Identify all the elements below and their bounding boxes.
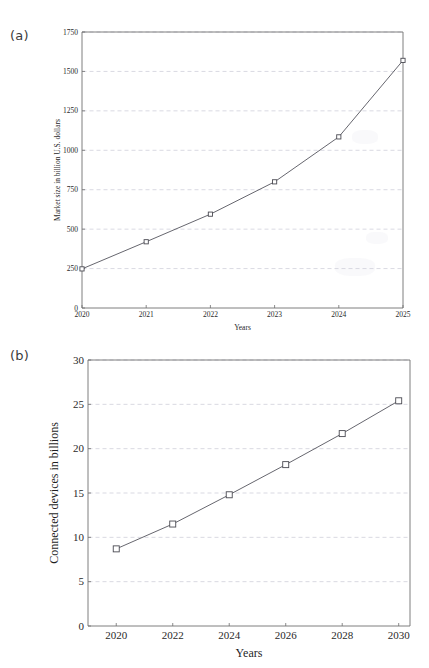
data-point-marker [80,267,84,271]
x-axis-title: Years [236,646,263,660]
y-tick-label: 10 [73,531,85,543]
y-tick-label: 1000 [63,146,78,155]
chart-panel-b: (b) 051015202530202020222024202620282030… [0,340,429,668]
x-tick-label: 2030 [388,629,411,641]
data-point-marker [113,546,119,552]
data-series-line [116,401,398,549]
x-tick-label: 2021 [139,310,154,319]
y-tick-label: 5 [79,575,85,587]
data-point-marker [226,492,232,498]
data-point-marker [273,180,277,184]
y-tick-label: 25 [73,398,85,410]
data-point-marker [339,431,345,437]
data-point-marker [337,135,341,139]
x-tick-label: 2022 [203,310,218,319]
y-axis-title: Market size in billion U.S. dollars [53,119,62,221]
data-point-marker [283,462,289,468]
y-tick-label: 30 [73,354,85,366]
y-tick-label: 1250 [63,106,78,115]
x-tick-label: 2024 [331,310,346,319]
x-tick-label: 2022 [162,629,184,641]
y-tick-label: 1500 [63,67,78,76]
line-chart-a: 0250500750100012501500175020202021202220… [0,0,429,340]
data-point-marker [401,58,405,62]
y-axis-title: Connected devices in billions [47,422,61,564]
y-tick-label: 1750 [63,28,78,37]
data-point-marker [170,521,176,527]
data-point-marker [208,212,212,216]
y-tick-label: 250 [67,264,79,273]
data-point-marker [396,398,402,404]
data-point-marker [144,240,148,244]
x-tick-label: 2023 [267,310,282,319]
x-tick-label: 2028 [331,629,354,641]
x-tick-label: 2024 [218,629,241,641]
chart-panel-a: (a) 025050075010001250150017502020202120… [0,0,429,340]
x-tick-label: 2020 [75,310,90,319]
data-series-line [82,60,403,269]
y-tick-label: 15 [73,487,85,499]
panel-label-a: (a) [10,28,29,43]
x-tick-label: 2020 [105,629,128,641]
y-tick-label: 0 [79,620,85,632]
line-chart-b: 051015202530202020222024202620282030Year… [0,340,429,668]
y-tick-label: 750 [67,185,79,194]
figure-container: (a) 025050075010001250150017502020202120… [0,0,429,668]
x-axis-title: Years [234,323,251,332]
y-tick-label: 500 [67,225,79,234]
x-tick-label: 2026 [275,629,298,641]
x-tick-label: 2025 [396,310,411,319]
panel-label-b: (b) [10,348,29,363]
y-tick-label: 20 [73,442,85,454]
